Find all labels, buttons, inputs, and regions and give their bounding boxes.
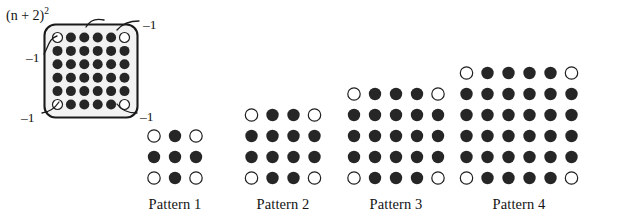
formula-exponent-text: 2: [44, 6, 49, 16]
filled-dot-annotated-r4-c3: [93, 86, 103, 96]
filled-dot-annotated-r3-c5: [120, 73, 130, 83]
filled-dot-annotated-r4-c5: [120, 86, 130, 96]
callout-left-label: –1: [26, 50, 40, 66]
filled-dot-pattern-2-r3-c2: [287, 172, 299, 184]
filled-dot-pattern-4-r1-c5: [565, 88, 577, 100]
filled-dot-annotated-r2-c2: [79, 59, 89, 69]
filled-dot-pattern-4-r2-c3: [523, 109, 535, 121]
filled-dot-pattern-4-r1-c2: [502, 88, 514, 100]
filled-dot-annotated-r2-c3: [93, 59, 103, 69]
filled-dot-annotated-r0-c3: [93, 33, 103, 43]
filled-dot-pattern-2-r2-c3: [308, 151, 320, 163]
filled-dot-annotated-r3-c4: [106, 73, 116, 83]
filled-dot-pattern-4-r3-c5: [565, 130, 577, 142]
open-dot-pattern-2-r0-c3: [308, 109, 320, 121]
filled-dot-pattern-3-r1-c4: [432, 109, 444, 121]
filled-dot-annotated-r3-c2: [79, 73, 89, 83]
filled-dot-pattern-3-r2-c1: [369, 130, 381, 142]
filled-dot-pattern-3-r4-c3: [411, 172, 423, 184]
open-dot-pattern-2-r0-c0: [245, 109, 257, 121]
filled-dot-pattern-2-r2-c2: [287, 151, 299, 163]
filled-dot-annotated-r1-c3: [93, 46, 103, 56]
filled-dot-pattern-4-r2-c0: [460, 109, 472, 121]
open-dot-pattern-3-r4-c4: [432, 172, 444, 184]
filled-dot-pattern-4-r1-c4: [544, 88, 556, 100]
filled-dot-pattern-4-r3-c1: [481, 130, 493, 142]
filled-dot-annotated-r0-c2: [79, 33, 89, 43]
filled-dot-annotated-r1-c1: [66, 46, 76, 56]
filled-dot-pattern-3-r1-c1: [369, 109, 381, 121]
filled-dot-pattern-3-r2-c0: [348, 130, 360, 142]
filled-dot-pattern-2-r0-c1: [266, 109, 278, 121]
filled-dot-pattern-3-r2-c4: [432, 130, 444, 142]
pattern-sequence-figure: n (n + 2)2 –1 –1 –1 –1 Pattern 1 Pattern…: [0, 0, 621, 224]
open-dot-annotated-r0-c5: [120, 33, 130, 43]
filled-dot-annotated-r0-c1: [66, 33, 76, 43]
open-dot-pattern-4-r0-c5: [565, 67, 577, 79]
filled-dot-annotated-r1-c0: [53, 46, 63, 56]
filled-dot-annotated-r0-c4: [106, 33, 116, 43]
filled-dot-pattern-4-r1-c1: [481, 88, 493, 100]
pattern-1-grid: [148, 130, 202, 184]
filled-dot-pattern-4-r1-c3: [523, 88, 535, 100]
filled-dot-annotated-r1-c5: [120, 46, 130, 56]
filled-dot-pattern-1-r0-c1: [169, 130, 181, 142]
callout-bottom-right-label: –1: [140, 109, 154, 125]
filled-dot-annotated-r5-c3: [93, 100, 103, 110]
filled-dot-pattern-4-r5-c1: [481, 172, 493, 184]
filled-dot-pattern-4-r4-c3: [523, 151, 535, 163]
formula-label: n (n + 2)2: [6, 8, 49, 24]
filled-dot-pattern-4-r0-c1: [481, 67, 493, 79]
open-dot-pattern-4-r0-c0: [460, 67, 472, 79]
filled-dot-annotated-r4-c4: [106, 86, 116, 96]
filled-dot-pattern-3-r3-c2: [390, 151, 402, 163]
filled-dot-pattern-4-r3-c2: [502, 130, 514, 142]
filled-dot-pattern-3-r3-c4: [432, 151, 444, 163]
filled-dot-pattern-1-r2-c1: [169, 172, 181, 184]
filled-dot-pattern-4-r4-c0: [460, 151, 472, 163]
filled-dot-pattern-4-r2-c4: [544, 109, 556, 121]
open-dot-pattern-3-r0-c4: [432, 88, 444, 100]
filled-dot-pattern-4-r3-c0: [460, 130, 472, 142]
callout-bottom-left-label: –1: [21, 110, 35, 126]
open-dot-pattern-1-r0-c0: [148, 130, 160, 142]
filled-dot-pattern-2-r0-c2: [287, 109, 299, 121]
filled-dot-pattern-2-r1-c2: [287, 130, 299, 142]
filled-dot-pattern-4-r5-c2: [502, 172, 514, 184]
filled-dot-pattern-4-r2-c2: [502, 109, 514, 121]
open-dot-pattern-1-r2-c0: [148, 172, 160, 184]
filled-dot-annotated-r4-c1: [66, 86, 76, 96]
open-dot-pattern-1-r0-c2: [190, 130, 202, 142]
filled-dot-pattern-3-r0-c3: [411, 88, 423, 100]
filled-dot-annotated-r4-c2: [79, 86, 89, 96]
filled-dot-pattern-4-r0-c3: [523, 67, 535, 79]
filled-dot-annotated-r2-c0: [53, 59, 63, 69]
open-dot-pattern-3-r0-c0: [348, 88, 360, 100]
callout-top-right-label: –1: [143, 17, 157, 33]
filled-dot-annotated-r2-c4: [106, 59, 116, 69]
filled-dot-pattern-1-r1-c0: [148, 151, 160, 163]
open-dot-pattern-2-r3-c3: [308, 172, 320, 184]
filled-dot-pattern-2-r1-c3: [308, 130, 320, 142]
filled-dot-annotated-r2-c5: [120, 59, 130, 69]
pattern-3-grid: [348, 88, 444, 184]
filled-dot-pattern-3-r3-c0: [348, 151, 360, 163]
filled-dot-pattern-4-r0-c4: [544, 67, 556, 79]
filled-dot-pattern-3-r2-c3: [411, 130, 423, 142]
filled-dot-pattern-2-r1-c0: [245, 130, 257, 142]
filled-dot-pattern-4-r2-c1: [481, 109, 493, 121]
filled-dot-pattern-4-r1-c0: [460, 88, 472, 100]
open-dot-pattern-1-r2-c2: [190, 172, 202, 184]
pattern-grids-group: [148, 67, 578, 184]
filled-dot-annotated-r3-c3: [93, 73, 103, 83]
open-dot-pattern-3-r4-c0: [348, 172, 360, 184]
formula-base-text: (n + 2): [6, 8, 44, 23]
pattern-1-label: Pattern 1: [131, 196, 219, 213]
filled-dot-pattern-3-r3-c3: [411, 151, 423, 163]
filled-dot-pattern-3-r4-c2: [390, 172, 402, 184]
filled-dot-pattern-2-r3-c1: [266, 172, 278, 184]
pattern-4-label: Pattern 4: [461, 196, 577, 213]
filled-dot-pattern-4-r4-c1: [481, 151, 493, 163]
filled-dot-annotated-r1-c4: [106, 46, 116, 56]
filled-dot-pattern-3-r3-c1: [369, 151, 381, 163]
